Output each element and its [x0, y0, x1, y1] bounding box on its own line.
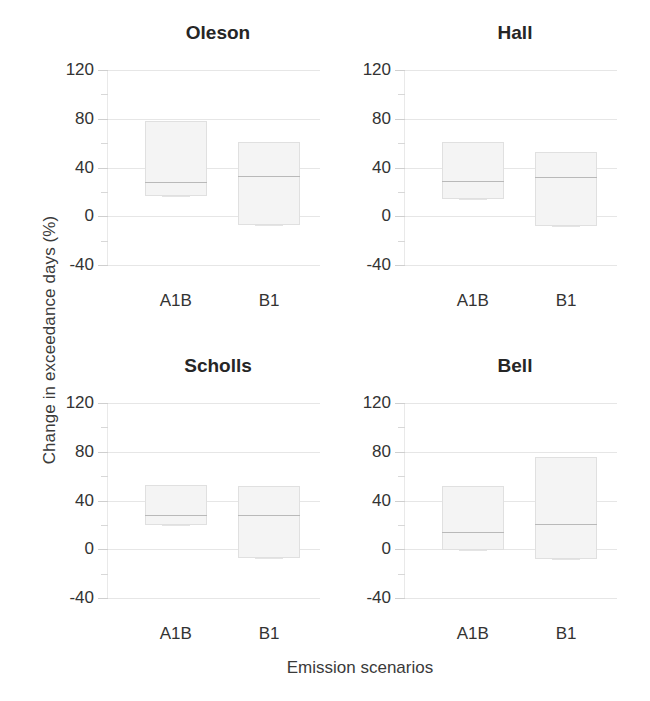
y-axis-minor-tick: [101, 574, 108, 575]
y-axis-tick-label: 40: [34, 491, 94, 511]
box-rect: [238, 142, 300, 225]
y-axis-tick-label: -40: [331, 588, 391, 608]
y-axis-tick: [395, 265, 405, 266]
panel-scholls: Scholls -4004080120A1BB1: [48, 355, 338, 685]
gridline: [108, 452, 320, 453]
gridline: [108, 598, 320, 599]
y-axis-minor-tick: [398, 525, 405, 526]
box-rect: [535, 152, 597, 226]
y-axis-tick-label: 80: [34, 442, 94, 462]
y-axis-tick-label: 80: [331, 442, 391, 462]
y-axis-tick-label: -40: [34, 588, 94, 608]
y-axis-tick-label: -40: [34, 255, 94, 275]
y-axis-minor-tick: [101, 241, 108, 242]
y-axis-tick-label: 40: [331, 491, 391, 511]
y-axis-tick-label: 80: [34, 109, 94, 129]
y-axis-tick: [395, 501, 405, 502]
gridline: [108, 403, 320, 404]
plot-area-oleson: -4004080120A1BB1: [108, 70, 320, 265]
box-rect: [145, 485, 207, 525]
y-axis-tick: [395, 70, 405, 71]
y-axis-minor-tick: [398, 241, 405, 242]
y-axis-tick: [395, 598, 405, 599]
y-axis-tick: [395, 216, 405, 217]
y-axis-tick-label: 0: [331, 206, 391, 226]
gridline: [405, 452, 617, 453]
plot-area-scholls: -4004080120A1BB1: [108, 403, 320, 598]
panel-title-bell: Bell: [405, 355, 625, 377]
y-axis-minor-tick: [101, 192, 108, 193]
y-axis-tick: [395, 119, 405, 120]
median-line: [145, 515, 207, 516]
panel-title-oleson: Oleson: [108, 22, 328, 44]
y-axis-minor-tick: [398, 143, 405, 144]
box-rect: [442, 142, 504, 199]
box-rect: [442, 486, 504, 551]
y-axis-tick-label: 120: [331, 393, 391, 413]
y-axis-minor-tick: [101, 525, 108, 526]
panel-title-scholls: Scholls: [108, 355, 328, 377]
y-axis-tick: [395, 452, 405, 453]
y-axis-tick: [98, 501, 108, 502]
y-axis-tick: [98, 168, 108, 169]
x-axis-tick-label: B1: [259, 624, 280, 644]
whisker-cap-lower: [552, 559, 580, 560]
y-axis-minor-tick: [398, 476, 405, 477]
x-axis-tick-label: B1: [259, 291, 280, 311]
gridline: [405, 119, 617, 120]
median-line: [442, 181, 504, 182]
whisker-cap-lower: [459, 199, 487, 200]
median-line: [442, 532, 504, 533]
y-axis-tick: [98, 216, 108, 217]
gridline: [405, 70, 617, 71]
panel-hall: Hall -4004080120A1BB1: [345, 22, 635, 352]
y-axis-minor-tick: [101, 94, 108, 95]
y-axis-tick-label: 80: [331, 109, 391, 129]
y-axis-tick-label: 120: [34, 60, 94, 80]
x-axis-tick-label: A1B: [457, 291, 489, 311]
x-axis-tick-label: A1B: [160, 624, 192, 644]
y-axis-tick-label: 40: [34, 158, 94, 178]
gridline: [405, 598, 617, 599]
y-axis-tick: [98, 265, 108, 266]
y-axis-minor-tick: [101, 476, 108, 477]
y-axis-tick: [98, 598, 108, 599]
gridline: [108, 265, 320, 266]
y-axis-tick: [395, 168, 405, 169]
y-axis-tick-label: 0: [331, 539, 391, 559]
panel-oleson: Oleson -4004080120A1BB1: [48, 22, 338, 352]
whisker-cap-lower: [255, 225, 283, 226]
y-axis-minor-tick: [101, 427, 108, 428]
gridline: [108, 70, 320, 71]
gridline: [405, 403, 617, 404]
y-axis-minor-tick: [398, 574, 405, 575]
median-line: [535, 524, 597, 525]
x-axis-tick-label: A1B: [160, 291, 192, 311]
y-axis-tick-label: 0: [34, 206, 94, 226]
y-axis-tick-label: 120: [331, 60, 391, 80]
whisker-cap-lower: [255, 558, 283, 559]
median-line: [535, 177, 597, 178]
y-axis-minor-tick: [398, 94, 405, 95]
box-rect: [145, 121, 207, 195]
whisker-cap-lower: [459, 550, 487, 551]
gridline: [108, 119, 320, 120]
gridline: [405, 265, 617, 266]
x-axis-tick-label: B1: [556, 291, 577, 311]
y-axis-tick-label: 0: [34, 539, 94, 559]
y-axis-tick-label: 40: [331, 158, 391, 178]
whisker-cap-lower: [552, 226, 580, 227]
y-axis-tick-label: -40: [331, 255, 391, 275]
box-rect: [238, 486, 300, 558]
whisker-cap-lower: [162, 525, 190, 526]
x-axis-tick-label: B1: [556, 624, 577, 644]
y-axis-tick: [98, 70, 108, 71]
y-axis-tick-label: 120: [34, 393, 94, 413]
plot-area-hall: -4004080120A1BB1: [405, 70, 617, 265]
median-line: [238, 515, 300, 516]
y-axis-minor-tick: [398, 427, 405, 428]
plot-area-bell: -4004080120A1BB1: [405, 403, 617, 598]
x-axis-tick-label: A1B: [457, 624, 489, 644]
median-line: [145, 182, 207, 183]
panel-bell: Bell -4004080120A1BB1: [345, 355, 635, 685]
